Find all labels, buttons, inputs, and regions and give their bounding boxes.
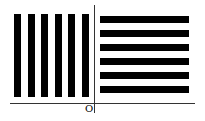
- grating-diagram: O: [0, 0, 205, 121]
- vertical-stripe: [28, 14, 35, 97]
- horizontal-stripe: [100, 58, 189, 65]
- x-axis: [10, 103, 195, 104]
- y-axis: [94, 5, 95, 113]
- horizontal-stripe: [100, 72, 189, 79]
- vertical-stripe: [41, 14, 48, 97]
- vertical-stripe: [55, 14, 62, 97]
- origin-label: O: [85, 103, 93, 114]
- horizontal-stripe: [100, 30, 189, 37]
- vertical-stripe: [68, 14, 75, 97]
- horizontal-stripe: [100, 16, 189, 23]
- horizontal-stripe: [100, 44, 189, 51]
- vertical-stripe: [82, 14, 89, 97]
- horizontal-stripe: [100, 86, 189, 93]
- vertical-stripe: [14, 14, 21, 97]
